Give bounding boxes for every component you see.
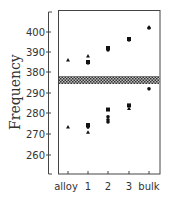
- x-tick-labels: alloy 1 2 3 bulk: [54, 181, 160, 192]
- frequency-scatter-chart: 400 390 380 290 280 270 260 Frequency al…: [0, 0, 172, 200]
- data-point-circle: [86, 61, 90, 65]
- ytick-260: 260: [26, 150, 45, 161]
- xtick-1: 1: [85, 181, 91, 192]
- y-tick-labels: 400 390 380 290 280 270 260: [26, 27, 45, 161]
- data-point-circle: [147, 26, 151, 30]
- ytick-290: 290: [26, 88, 45, 99]
- axis-break-band: [59, 76, 160, 84]
- ytick-270: 270: [26, 129, 45, 140]
- ytick-380: 380: [26, 67, 45, 78]
- xtick-3: 3: [126, 181, 132, 192]
- xtick-2: 2: [105, 181, 111, 192]
- data-point-triangle: [66, 125, 70, 129]
- data-point-triangle: [86, 130, 90, 134]
- data-point-circle: [106, 115, 110, 119]
- xtick-bulk: bulk: [138, 181, 159, 192]
- data-point-circle: [127, 38, 131, 42]
- data-point-circle: [147, 87, 151, 91]
- data-point-circle: [86, 125, 90, 129]
- data-point-triangle: [86, 54, 90, 58]
- ytick-390: 390: [26, 47, 45, 58]
- data-point-square: [106, 108, 110, 112]
- data-point-triangle: [66, 58, 70, 62]
- xtick-alloy: alloy: [54, 181, 78, 192]
- ytick-400: 400: [26, 27, 45, 38]
- ytick-280: 280: [26, 108, 45, 119]
- plot-area: [59, 11, 161, 175]
- y-axis-label: Frequency: [7, 54, 23, 130]
- data-point-circle: [106, 120, 110, 124]
- data-point-circle: [106, 48, 110, 52]
